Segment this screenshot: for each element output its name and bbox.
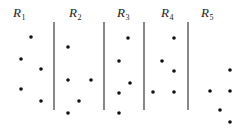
point-dot-region-1: [19, 57, 23, 61]
point-dot-region-3: [117, 111, 121, 115]
point-dot-region-3: [128, 81, 132, 85]
point-dot-region-2: [89, 78, 93, 82]
point-dot-region-4: [172, 36, 176, 40]
point-dot-region-1: [19, 87, 23, 91]
point-dot-region-2: [66, 45, 70, 49]
region-label-subscript: 1: [21, 13, 25, 22]
point-dot-region-1: [39, 67, 43, 71]
point-dot-region-4: [172, 69, 176, 73]
region-labels: R1R2R3R4R5: [12, 5, 213, 22]
point-dot-region-3: [117, 91, 121, 95]
point-dot-region-2: [66, 78, 70, 82]
point-dot-region-5: [218, 108, 222, 112]
region-label-subscript: 2: [77, 13, 81, 22]
point-dot-region-5: [228, 89, 232, 93]
region-label-subscript: 4: [169, 13, 173, 22]
region-label-3: R3: [116, 5, 129, 22]
point-dot-region-5: [228, 68, 232, 72]
point-dot-region-3: [126, 36, 130, 40]
data-points: [19, 35, 232, 124]
region-label-1: R1: [12, 5, 25, 22]
point-dot-region-3: [117, 59, 121, 63]
point-dot-region-4: [172, 90, 176, 94]
region-label-subscript: 3: [125, 13, 129, 22]
region-dividers: [54, 22, 188, 110]
region-label-2: R2: [68, 5, 81, 22]
point-dot-region-4: [151, 90, 155, 94]
point-dot-region-2: [77, 99, 81, 103]
point-dot-region-1: [29, 35, 33, 39]
regions-diagram: R1R2R3R4R5: [0, 0, 243, 132]
region-label-5: R5: [200, 5, 213, 22]
point-dot-region-1: [39, 99, 43, 103]
region-label-subscript: 5: [209, 13, 213, 22]
region-label-4: R4: [160, 5, 173, 22]
point-dot-region-2: [66, 111, 70, 115]
point-dot-region-5: [208, 89, 212, 93]
point-dot-region-5: [228, 120, 232, 124]
point-dot-region-4: [160, 59, 164, 63]
